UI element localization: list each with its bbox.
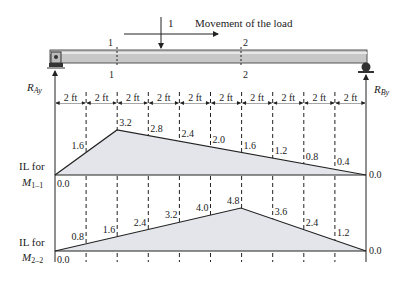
il-value-label: 3.6 <box>275 206 288 217</box>
il-m2-2: 0.00.81.62.43.24.04.83.62.41.20.0 IL for… <box>19 195 382 265</box>
section-2-bottom-label: 2 <box>243 69 248 80</box>
il-value-label: 3.2 <box>165 209 178 220</box>
reaction-right-label: RBy <box>373 83 390 97</box>
load-label: 1 <box>168 17 174 29</box>
section-2-top-label: 2 <box>243 37 248 48</box>
section-1-bottom-label: 1 <box>109 69 114 80</box>
il-value-label: 2.4 <box>181 128 194 139</box>
il2-subtitle: M2–2 <box>21 251 43 265</box>
il-value-label: 2.8 <box>150 123 163 134</box>
il-value-label: 1.2 <box>275 145 288 156</box>
il-value-label: 0.8 <box>72 231 85 242</box>
spacing-label: 2 ft <box>126 92 140 103</box>
il-value-label: 0.0 <box>369 169 382 180</box>
il1-subtitle: M1–1 <box>21 176 43 190</box>
il-value-label: 0.0 <box>57 254 70 265</box>
il-value-label: 1.6 <box>72 140 85 151</box>
il-value-label: 4.0 <box>196 202 209 213</box>
spacing-label: 2 ft <box>188 92 202 103</box>
spacing-label: 2 ft <box>157 92 171 103</box>
moving-load: 1 Movement of the load <box>124 17 293 48</box>
il-value-label: 2.4 <box>306 217 319 228</box>
spacing-label: 2 ft <box>95 92 109 103</box>
reaction-left-label: RAy <box>26 81 42 95</box>
spacing-label: 2 ft <box>313 92 327 103</box>
beam <box>50 50 367 63</box>
spacing-label: 2 ft <box>250 92 264 103</box>
movement-label: Movement of the load <box>195 17 293 29</box>
il-value-label: 0.4 <box>337 156 350 167</box>
influence-line-diagram: 1 Movement of the load 1 1 2 2 RAy RBy 2… <box>0 0 407 281</box>
section-1-top-label: 1 <box>108 37 113 48</box>
il-value-label: 0.0 <box>57 178 70 189</box>
spacing-label: 2 ft <box>281 92 295 103</box>
il-value-label: 4.8 <box>227 195 240 206</box>
il-value-label: 0.0 <box>369 245 382 256</box>
il-m1-1: 0.01.63.22.82.42.01.61.20.80.40.0 IL for… <box>19 117 382 190</box>
spacing-label: 2 ft <box>344 92 358 103</box>
il-value-label: 3.2 <box>119 117 132 128</box>
il1-title: IL for <box>19 160 45 172</box>
il2-title: IL for <box>19 236 45 248</box>
il-value-label: 1.2 <box>337 227 350 238</box>
il-value-label: 0.8 <box>306 151 319 162</box>
il-value-label: 2.4 <box>134 217 147 228</box>
spacing-label: 2 ft <box>219 92 233 103</box>
spacing-label: 2 ft <box>64 92 78 103</box>
il-value-label: 2.0 <box>213 134 226 145</box>
il-value-label: 1.6 <box>103 224 116 235</box>
roller-support-icon <box>358 63 374 73</box>
il-value-label: 1.6 <box>244 140 257 151</box>
